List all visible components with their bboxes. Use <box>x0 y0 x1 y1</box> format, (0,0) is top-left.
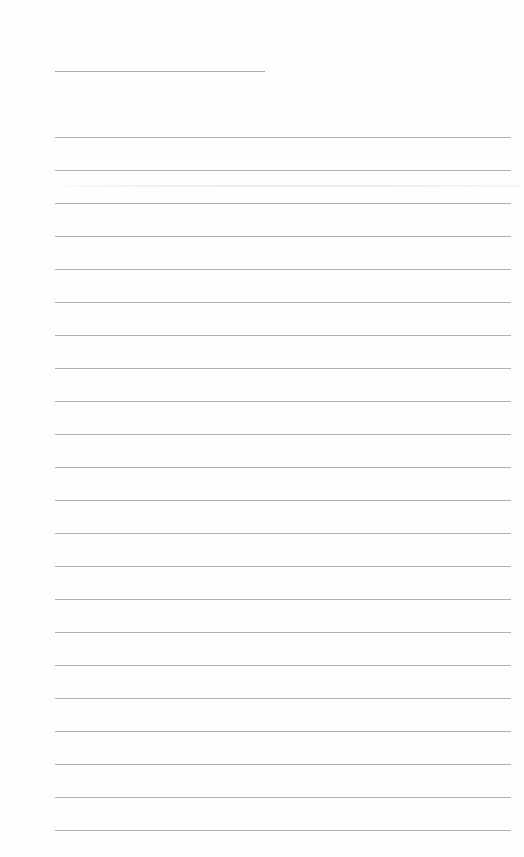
ruled-line <box>55 368 511 369</box>
ruled-line <box>55 335 511 336</box>
ruled-line <box>55 731 511 732</box>
ruled-line <box>55 764 511 765</box>
ruled-line <box>55 632 511 633</box>
ruled-line <box>55 566 511 567</box>
ruled-line <box>55 533 511 534</box>
ruled-line <box>55 302 511 303</box>
ruled-line <box>55 467 511 468</box>
ruled-line <box>55 203 511 204</box>
ruled-line <box>55 137 511 138</box>
ruled-line <box>55 665 511 666</box>
ruled-line <box>55 830 511 831</box>
ruled-line <box>55 170 511 171</box>
ruled-line <box>55 698 511 699</box>
ruled-line <box>55 269 511 270</box>
ruled-page <box>0 0 524 857</box>
ruled-line <box>55 599 511 600</box>
ruled-line <box>55 401 511 402</box>
ruled-line <box>55 500 511 501</box>
scan-smudge <box>40 185 520 187</box>
ruled-line <box>55 236 511 237</box>
title-line <box>55 71 265 72</box>
ruled-line <box>55 434 511 435</box>
ruled-line <box>55 797 511 798</box>
